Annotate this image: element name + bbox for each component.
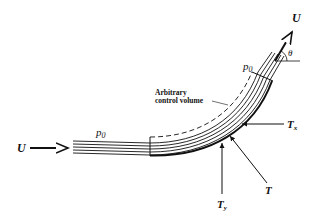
force-t-label: T [265, 184, 273, 196]
jet-deflection-diagram: U p0 p0 U θ Arbitrary control volume Tx … [0, 0, 324, 219]
force-tx-label: Tx [287, 118, 298, 132]
force-t-arrow [230, 136, 267, 183]
inlet-velocity-label: U [17, 141, 27, 155]
angle-theta-label: θ [288, 48, 293, 58]
force-ty-label: Ty [217, 198, 228, 212]
inlet-pressure-label: p0 [95, 126, 106, 140]
control-volume-leader [212, 101, 228, 105]
outlet-velocity-label: U [292, 11, 302, 25]
control-volume-label-line2: control volume [155, 96, 204, 105]
outlet-pressure-label: p0 [242, 60, 253, 74]
control-volume-boundary [150, 72, 273, 156]
